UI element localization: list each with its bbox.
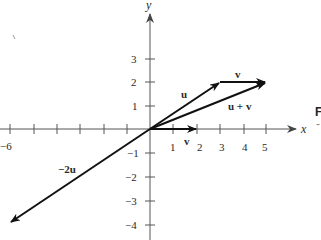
x-tick-label: 2 [197,141,203,153]
vector-u-plus-v-label: u + v [228,100,252,112]
cropped-side-dash: - [316,117,320,131]
y-tick-label: 3 [131,53,137,65]
vector-v-label: v [184,135,190,147]
y-axis-label: y [145,0,152,12]
x-tick-label: −6 [0,140,12,152]
vector-minus-2u-label: −2u [58,163,76,175]
stray-mark [13,35,15,39]
x-tick-label: 5 [262,141,268,153]
x-tick-label: 3 [219,141,225,153]
x-axis-label: x [300,122,307,136]
y-tick-label: 2 [131,76,137,88]
vector-diagram: y x −6 1 2 3 4 5 3 2 1 −1 −2 −3 −4 u v u… [0,0,321,240]
y-tick-label: −2 [125,171,137,183]
vector-u-label: u [181,88,187,100]
y-tick-label: −4 [125,219,137,231]
vector-v-translated-label: v [235,68,241,80]
y-tick-label: 1 [132,100,138,112]
x-tick-label: 4 [242,141,248,153]
y-tick-label: −3 [125,195,137,207]
axes [0,14,296,240]
y-tick-label: −1 [127,147,139,159]
x-tick-label: 1 [170,141,176,153]
